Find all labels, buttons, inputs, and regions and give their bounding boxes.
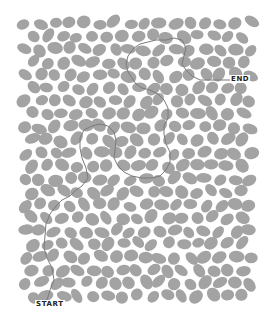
maze-blob <box>62 119 79 133</box>
maze-blob <box>190 29 204 39</box>
maze-blob <box>120 43 136 54</box>
maze-blob <box>46 41 64 56</box>
maze-blob <box>235 288 248 301</box>
maze-blob <box>39 156 56 173</box>
maze-blob <box>50 17 63 28</box>
maze-blob <box>150 68 166 86</box>
maze-blob <box>104 119 122 138</box>
maze-blob <box>228 43 245 56</box>
maze-blob <box>91 94 108 110</box>
maze-blob <box>243 146 260 161</box>
maze-blob <box>131 29 147 43</box>
maze-blob <box>77 94 94 110</box>
maze-blob <box>145 131 163 148</box>
maze-blob <box>97 157 114 175</box>
maze-blob <box>85 159 101 175</box>
maze-blob <box>86 289 101 304</box>
maze-blob <box>90 42 108 59</box>
maze-blob <box>177 239 192 250</box>
maze-blob <box>75 69 92 85</box>
maze-canvas <box>0 0 272 316</box>
maze-blob <box>167 119 183 134</box>
maze-blob <box>113 289 130 306</box>
maze-blob <box>98 209 114 227</box>
maze-blob <box>45 225 63 240</box>
maze-blob <box>123 249 139 263</box>
maze-blob <box>182 276 198 292</box>
maze-blob <box>210 249 229 266</box>
maze-blob <box>84 106 100 120</box>
maze-blob <box>210 65 228 84</box>
maze-blob <box>167 223 184 237</box>
maze-blob <box>243 13 261 30</box>
maze-blob <box>100 105 117 121</box>
maze-blob <box>68 262 86 278</box>
end-label: END <box>230 75 250 83</box>
maze-blob <box>186 287 205 306</box>
maze-blob <box>218 159 235 172</box>
maze-blob <box>151 145 168 159</box>
maze-blob <box>129 212 145 227</box>
start-label: START <box>35 300 65 308</box>
maze-blob <box>178 56 191 67</box>
maze-blob <box>47 92 63 109</box>
maze-blob <box>150 251 168 265</box>
maze-blob <box>245 253 258 264</box>
maze-blob <box>78 225 95 241</box>
maze-blob <box>84 131 101 147</box>
maze-blob <box>108 94 122 105</box>
maze-blob <box>213 147 230 161</box>
maze-blob <box>70 82 86 97</box>
maze-blob <box>189 186 205 200</box>
maze-blob <box>119 120 137 136</box>
maze-blob <box>17 67 34 83</box>
maze-blob <box>172 183 191 202</box>
maze-blob <box>220 289 235 302</box>
maze-blob <box>34 93 49 107</box>
maze-blob <box>174 106 191 120</box>
maze-blob <box>227 275 244 290</box>
maze-blob <box>61 277 76 288</box>
maze-blob <box>69 52 88 69</box>
maze-blob <box>152 224 169 240</box>
maze-blob <box>145 289 161 305</box>
maze-blob <box>53 211 70 226</box>
maze-blob <box>217 186 234 200</box>
maze-blob <box>165 250 182 267</box>
maze-blob <box>220 81 236 95</box>
maze-blob <box>235 105 254 120</box>
maze-blob <box>142 237 159 254</box>
maze-blob <box>161 130 178 147</box>
maze-blob <box>233 209 252 226</box>
maze-blob <box>84 80 101 97</box>
ellipse-field <box>14 12 261 306</box>
maze-blob <box>128 183 146 198</box>
maze-blob <box>220 29 236 45</box>
maze-blob <box>235 265 251 277</box>
maze-blob <box>33 144 50 161</box>
maze-blob <box>120 274 138 292</box>
maze-blob <box>67 107 84 122</box>
maze-blob <box>16 119 33 135</box>
maze-blob <box>60 92 78 109</box>
maze-blob <box>94 146 110 158</box>
maze-blob <box>174 212 189 225</box>
maze-blob <box>100 31 114 43</box>
maze-blob <box>23 263 40 278</box>
maze-blob <box>199 121 211 132</box>
maze-blob <box>181 68 195 82</box>
maze-blob <box>93 69 108 80</box>
maze-blob <box>204 159 219 170</box>
maze-blob <box>61 15 77 29</box>
maze-blob <box>93 20 106 30</box>
maze-blob <box>195 224 212 239</box>
maze-blob <box>115 81 131 97</box>
maze-blob <box>39 82 53 93</box>
maze-blob <box>100 289 116 302</box>
maze-blob <box>83 211 101 229</box>
maze-blob <box>175 131 191 147</box>
maze-blob <box>54 108 68 118</box>
maze-blob <box>25 28 42 44</box>
maze-blob <box>228 250 245 263</box>
maze-blob <box>114 29 130 43</box>
